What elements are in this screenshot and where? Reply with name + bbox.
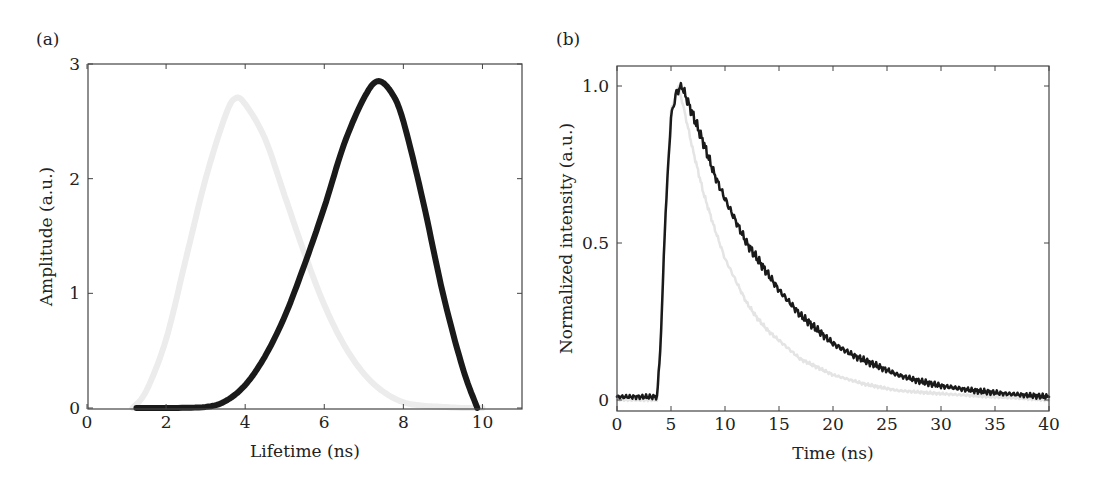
- x-tick-label: 5: [666, 414, 677, 434]
- y-tick-label: 0.5: [582, 233, 609, 253]
- plot-frame: [617, 66, 1049, 411]
- x-tick-label: 0: [612, 414, 623, 434]
- x-tick-label: 10: [714, 414, 736, 434]
- x-tick-label: 20: [822, 414, 844, 434]
- x-axis-title: Time (ns): [792, 443, 873, 463]
- x-tick-label: 15: [768, 414, 790, 434]
- x-tick-label: 25: [876, 414, 898, 434]
- intensity-decay-chart: 051015202530354000.51.0Time (ns)Normaliz…: [0, 0, 1094, 493]
- y-tick-label: 1.0: [582, 76, 609, 96]
- series-line: [617, 83, 1049, 399]
- series-line: [617, 86, 1049, 401]
- x-tick-label: 35: [984, 414, 1006, 434]
- x-tick-label: 40: [1038, 414, 1060, 434]
- x-tick-label: 30: [930, 414, 952, 434]
- y-tick-label: 0: [598, 390, 609, 410]
- y-axis-title: Normalized intensity (a.u.): [556, 123, 576, 354]
